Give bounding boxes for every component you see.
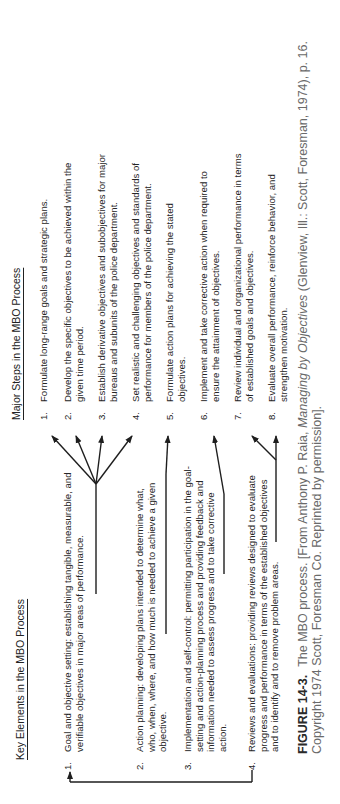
key-element-text: Goal and objective setting: establishing… (62, 470, 85, 752)
step-number: 3. (96, 402, 119, 420)
step-number: 1. (38, 402, 50, 420)
step-number: 8. (266, 402, 289, 420)
key-element-2: 2. Action planning: developing plans int… (134, 470, 169, 770)
major-step-1: 1. Formulate long-range goals and strate… (38, 120, 50, 420)
step-text: Establish derivative objectives and subo… (96, 120, 119, 402)
key-elements-heading: Key Elements in the MBO Process (14, 599, 26, 760)
step-number: 5. (164, 402, 187, 420)
key-element-number: 2. (134, 752, 169, 770)
figure-label: FIGURE 14-3. (296, 675, 310, 754)
key-element-text: Action planning: developing plans intend… (134, 470, 169, 752)
major-steps-heading: Major Steps in the MBO Process (10, 268, 22, 420)
caption-book-title: Managing by Objectives (296, 295, 310, 428)
major-step-5: 5. Formulate action plans for achieving … (164, 170, 187, 420)
step-text: Evaluate overall performance, reinforce … (266, 144, 289, 402)
step-number: 6. (198, 402, 221, 420)
rotated-figure-page: Key Elements in the MBO Process 1. Goal … (0, 0, 340, 804)
major-step-7: 7. Review individual and organizational … (232, 144, 255, 420)
figure-caption: FIGURE 14-3.The MBO process. [From Antho… (296, 4, 324, 754)
step-text: Set realistic and challenging objectives… (130, 110, 153, 402)
step-text: Develop the specific objectives to be ac… (62, 160, 85, 402)
key-element-number: 4. (246, 752, 281, 770)
key-element-3: 3. Implementation and self-control: perm… (182, 464, 228, 770)
step-text: Formulate action plans for achieving the… (164, 170, 187, 402)
step-text: Formulate long-range goals and strategic… (38, 120, 50, 402)
step-text: Implement and take corrective action whe… (198, 150, 221, 402)
major-step-2: 2. Develop the specific objectives to be… (62, 160, 85, 420)
caption-text-start: The MBO process. [From Anthony P. Raia, (296, 428, 310, 667)
key-element-number: 3. (182, 752, 228, 770)
step-number: 7. (232, 402, 255, 420)
key-element-4: 4. Reviews and evaluations: providing re… (246, 464, 281, 770)
step-number: 4. (130, 402, 153, 420)
feedback-loop-arrow (70, 770, 252, 782)
key-element-text: Implementation and self-control: permitt… (182, 464, 228, 752)
major-step-8: 8. Evaluate overall performance, reinfor… (266, 144, 289, 420)
major-step-4: 4. Set realistic and challenging objecti… (130, 110, 153, 420)
key-element-text: Reviews and evaluations: providing revie… (246, 464, 281, 752)
major-step-6: 6. Implement and take corrective action … (198, 150, 221, 420)
key-element-number: 1. (62, 752, 85, 770)
step-text: Review individual and organizational per… (232, 144, 255, 402)
major-step-3: 3. Establish derivative objectives and s… (96, 120, 119, 420)
step-number: 2. (62, 402, 85, 420)
key-element-1: 1. Goal and objective setting: establish… (62, 470, 85, 770)
